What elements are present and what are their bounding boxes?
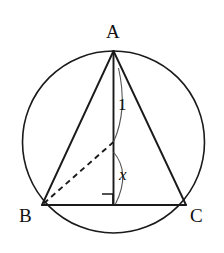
radius-length-label: 1 — [118, 95, 127, 114]
geometry-figure: A B C 1 x — [0, 0, 224, 253]
segment-OB-radius — [42, 142, 114, 205]
vertex-label-A: A — [106, 21, 120, 42]
vertex-label-C: C — [190, 205, 203, 226]
right-angle-mark — [102, 194, 113, 205]
vertex-label-B: B — [19, 205, 32, 226]
angle-x-label: x — [118, 165, 127, 184]
geometry-canvas: A B C 1 x — [0, 0, 224, 253]
